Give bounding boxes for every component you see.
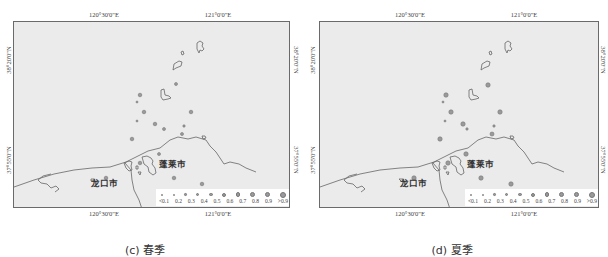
legend-label: 0.6 bbox=[535, 198, 542, 204]
lon-tick-top-1: 120°30'0"E bbox=[395, 11, 425, 18]
lat-tick-left-1: 38°20'0"N bbox=[309, 46, 316, 73]
station-markers bbox=[104, 83, 204, 186]
legend-labels: <0.1 0.2 0.3 0.4 0.5 0.6 0.7 0.8 0.9 >0.… bbox=[465, 198, 599, 204]
legend-dot-icon bbox=[589, 192, 595, 198]
legend-dot-icon bbox=[574, 192, 580, 198]
legend-label: 0.2 bbox=[484, 198, 491, 204]
legend-dot-icon bbox=[470, 194, 472, 196]
lat-tick-right-2: 37°55'0"N bbox=[600, 146, 607, 173]
legend-dot-icon bbox=[559, 192, 564, 197]
legend: <0.1 0.2 0.3 0.4 0.5 0.6 0.7 0.8 0.9 >0.… bbox=[465, 189, 599, 206]
legend-dot-icon bbox=[250, 192, 255, 197]
map-coastline bbox=[320, 22, 599, 208]
legend-dot-icon bbox=[161, 194, 163, 196]
legend-label: 0.7 bbox=[548, 198, 555, 204]
legend-label: 0.9 bbox=[265, 198, 272, 204]
lat-tick-left-2: 37°55'0"N bbox=[309, 146, 316, 173]
map-coastline bbox=[14, 22, 290, 208]
legend-label: 0.2 bbox=[175, 198, 182, 204]
legend-label: 0.3 bbox=[188, 198, 195, 204]
legend-symbols bbox=[156, 191, 290, 198]
lon-tick-top-2: 121°0'0"E bbox=[511, 11, 538, 18]
station-markers bbox=[412, 83, 513, 186]
legend-label: 0.5 bbox=[214, 198, 221, 204]
legend-label: 0.7 bbox=[239, 198, 246, 204]
legend-dot-icon bbox=[222, 193, 226, 197]
legend-label: <0.1 bbox=[159, 198, 169, 204]
lat-tick-right-1: 38°20'0"N bbox=[600, 46, 607, 73]
lon-tick-bottom-1: 120°30'0"E bbox=[395, 210, 425, 217]
lon-tick-bottom-1: 120°30'0"E bbox=[89, 210, 119, 217]
city-label-longkou: 龙口市 bbox=[91, 176, 118, 188]
legend-label: 0.8 bbox=[561, 198, 568, 204]
panel-caption: (c) 春季 bbox=[125, 241, 165, 257]
legend-dot-icon bbox=[184, 193, 187, 196]
lat-tick-left-1: 38°20'0"N bbox=[5, 46, 12, 73]
panel-caption: (d) 夏季 bbox=[431, 241, 472, 257]
legend-dot-icon bbox=[196, 193, 199, 196]
legend-dot-icon bbox=[518, 193, 522, 197]
map-frame: 蓬莱市 龙口市 <0.1 0.2 0.3 0.4 0.5 0.6 bbox=[319, 21, 599, 208]
legend-label: 0.9 bbox=[574, 198, 581, 204]
legend-label: 0.6 bbox=[226, 198, 233, 204]
legend-label: 0.3 bbox=[497, 198, 504, 204]
legend-label: >0.9 bbox=[278, 198, 288, 204]
legend-labels: <0.1 0.2 0.3 0.4 0.5 0.6 0.7 0.8 0.9 >0.… bbox=[156, 198, 290, 204]
legend-dot-icon bbox=[482, 194, 484, 196]
map-panel-left: 120°30'0"E 121°0'0"E 38°20'0"N 37°55'0"N… bbox=[0, 0, 304, 250]
legend-label: 0.4 bbox=[510, 198, 517, 204]
city-label-penglai: 蓬莱市 bbox=[159, 157, 186, 169]
city-label-penglai: 蓬莱市 bbox=[467, 157, 494, 169]
legend-label: >0.9 bbox=[587, 198, 597, 204]
legend-label: 0.4 bbox=[201, 198, 208, 204]
legend-label: <0.1 bbox=[468, 198, 478, 204]
map-frame: 蓬莱市 龙口市 <0.1 0.2 0.3 0.4 0.5 0.6 bbox=[13, 21, 290, 208]
map-panel-right: 120°30'0"E 121°0'0"E 38°20'0"N 37°55'0"N… bbox=[304, 0, 608, 250]
legend-dot-icon bbox=[493, 193, 496, 196]
lon-tick-top-2: 121°0'0"E bbox=[205, 11, 232, 18]
legend-label: 0.5 bbox=[523, 198, 530, 204]
lon-tick-bottom-2: 121°0'0"E bbox=[205, 210, 232, 217]
legend-dot-icon bbox=[236, 192, 241, 197]
lon-tick-top-1: 120°30'0"E bbox=[89, 11, 119, 18]
legend: <0.1 0.2 0.3 0.4 0.5 0.6 0.7 0.8 0.9 >0.… bbox=[156, 189, 290, 206]
city-label-longkou: 龙口市 bbox=[400, 176, 427, 188]
legend-dot-icon bbox=[545, 192, 550, 197]
lat-tick-right-1: 38°20'0"N bbox=[293, 46, 300, 73]
legend-dot-icon bbox=[505, 193, 508, 196]
legend-dot-icon bbox=[265, 192, 271, 198]
lat-tick-left-2: 37°55'0"N bbox=[5, 146, 12, 173]
legend-label: 0.8 bbox=[252, 198, 259, 204]
lat-tick-right-2: 37°55'0"N bbox=[293, 146, 300, 173]
legend-dot-icon bbox=[209, 193, 213, 197]
legend-dot-icon bbox=[280, 192, 286, 198]
lon-tick-bottom-2: 121°0'0"E bbox=[511, 210, 538, 217]
legend-symbols bbox=[465, 191, 599, 198]
legend-dot-icon bbox=[531, 193, 535, 197]
legend-dot-icon bbox=[173, 194, 175, 196]
